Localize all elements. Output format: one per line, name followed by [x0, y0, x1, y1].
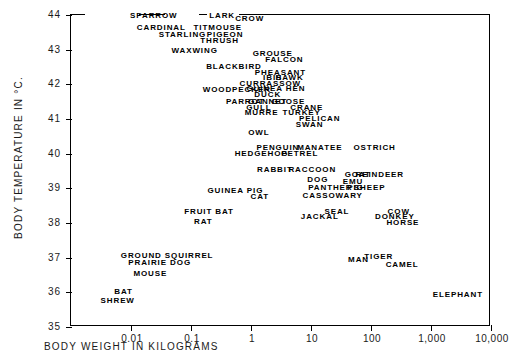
data-point-label: BLACKBIRD — [206, 62, 262, 71]
y-axis-tick-label: 41 — [48, 113, 61, 124]
data-point-label: PETREL — [281, 148, 318, 157]
y-axis-tick: 41 — [66, 119, 72, 120]
data-point-label: CASSOWARY — [303, 190, 363, 199]
x-axis-tick: 0.1 — [191, 325, 192, 331]
data-point-label: OWL — [248, 128, 269, 137]
data-point-label: CROW — [235, 14, 264, 23]
x-axis-tick: 100 — [371, 325, 372, 331]
x-axis-tick: 1,000 — [431, 325, 432, 331]
x-axis-title: BODY WEIGHT IN KILOGRAMS — [44, 341, 219, 352]
y-axis-tick: 36 — [66, 292, 72, 293]
y-axis-tick: 43 — [66, 50, 72, 51]
y-axis-tick: 39 — [66, 188, 72, 189]
x-axis-tick-label: 100 — [363, 333, 381, 344]
x-axis-tick-label: 1,000 — [418, 333, 446, 344]
y-axis-tick-label: 40 — [48, 148, 61, 159]
data-point-label: SWAN — [296, 119, 324, 128]
data-point-label: RACCOON — [288, 165, 336, 174]
y-axis-tick: 42 — [66, 84, 72, 85]
x-axis-tick: 1 — [251, 325, 252, 331]
y-axis-tick-label: 38 — [48, 217, 61, 228]
x-axis-tick: 10,000 — [491, 325, 492, 331]
data-point-label: FRUIT BAT — [184, 206, 234, 215]
y-axis-tick: 40 — [66, 154, 72, 155]
y-axis-tick: 35 — [66, 327, 72, 328]
data-point-label: THRUSH — [200, 35, 239, 44]
data-point-label: JACKAL — [301, 212, 339, 221]
y-axis-tick: 44 — [66, 15, 72, 16]
y-axis-tick-label: 44 — [48, 9, 61, 20]
x-axis-tick-label: 10 — [306, 333, 318, 344]
data-point-label: BAT — [114, 286, 133, 295]
data-point-label: LARK — [209, 11, 235, 20]
data-point-label: MOUSE — [133, 269, 167, 278]
data-point-label: SPARROW — [130, 11, 177, 20]
data-point-label: RABBIT — [257, 165, 293, 174]
data-point-label: FALCON — [265, 55, 303, 64]
y-axis-tick-label: 42 — [48, 78, 61, 89]
data-point-label: CAT — [250, 191, 269, 200]
x-axis-tick: 10 — [311, 325, 312, 331]
y-axis-tick-label: 35 — [48, 321, 61, 332]
data-point-label: MURRE — [245, 108, 279, 117]
x-axis-tick: 0.01 — [131, 325, 132, 331]
y-axis-title: BODY TEMPERATURE IN °C. — [13, 48, 24, 268]
y-axis-tick-label: 39 — [48, 182, 61, 193]
x-axis-tick-label: 1 — [249, 333, 255, 344]
chart-figure: 444342414039383736350.010.11101001,00010… — [0, 0, 514, 358]
y-axis-tick-label: 37 — [48, 252, 61, 263]
data-point-label: CAMEL — [386, 259, 419, 268]
x-axis-tick-label: 10,000 — [475, 333, 509, 344]
data-point-label: HORSE — [386, 217, 419, 226]
y-axis-tick: 37 — [66, 258, 72, 259]
y-axis-tick-label: 36 — [48, 286, 61, 297]
data-point-label: STARLING — [159, 30, 207, 39]
data-point-label: WAXWING — [171, 45, 217, 54]
data-point-label: ELEPHANT — [433, 290, 483, 299]
data-point-label: SHREW — [101, 295, 135, 304]
data-point-label: DOG — [307, 174, 328, 183]
data-point-label: PRAIRIE DOG — [128, 258, 191, 267]
y-axis-tick: 38 — [66, 223, 72, 224]
y-axis-tick-label: 43 — [48, 44, 61, 55]
data-point-label: OSTRICH — [353, 142, 395, 151]
data-point-label: RAT — [194, 217, 213, 226]
plot-area: 444342414039383736350.010.11101001,00010… — [70, 14, 490, 326]
